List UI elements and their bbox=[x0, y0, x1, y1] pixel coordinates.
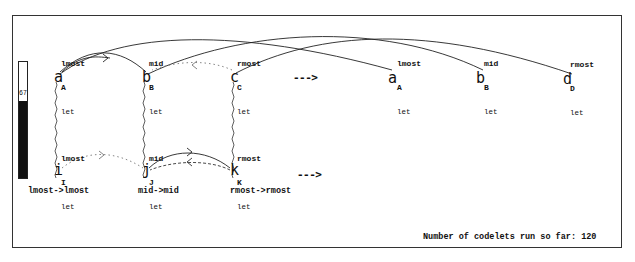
codelet-counter-label: Number of codelets run so far: bbox=[423, 232, 576, 242]
target-j-descriptions: mid J let bbox=[149, 139, 163, 219]
initial-letter-c: c bbox=[230, 70, 239, 85]
top-arrow: ---> bbox=[293, 71, 318, 84]
initial-letter-b: b bbox=[142, 70, 151, 85]
temperature-fill bbox=[19, 101, 27, 178]
category: B bbox=[484, 84, 498, 92]
initial-b-descriptions: mid B let bbox=[149, 44, 163, 124]
category: B bbox=[149, 84, 163, 92]
codelet-count: 120 bbox=[581, 232, 596, 242]
codelet-counter: Number of codelets run so far: 120 bbox=[423, 232, 596, 242]
type: let bbox=[570, 109, 594, 117]
target-i-descriptions: lmost I let bbox=[61, 139, 85, 219]
modified-b-descriptions: mid B let bbox=[484, 44, 498, 124]
category: D bbox=[570, 85, 594, 93]
modified-a-descriptions: lmost A let bbox=[397, 44, 421, 124]
modified-letter-d: d bbox=[563, 72, 572, 87]
mapping-rmost: rmost->rmost bbox=[230, 186, 291, 196]
type: let bbox=[484, 108, 498, 116]
description: rmost bbox=[237, 60, 261, 68]
workspace-frame bbox=[12, 15, 622, 248]
category: C bbox=[237, 84, 261, 92]
type: let bbox=[61, 108, 85, 116]
description: lmost bbox=[61, 155, 85, 163]
type: let bbox=[237, 108, 261, 116]
description: mid bbox=[149, 60, 163, 68]
mapping-lmost: lmost->lmost bbox=[28, 186, 89, 196]
bottom-arrow: ---> bbox=[297, 168, 322, 181]
initial-a-descriptions: lmost A let bbox=[61, 44, 85, 124]
target-k-descriptions: rmost K let bbox=[237, 139, 261, 219]
temperature-gauge: 67 bbox=[18, 61, 28, 179]
description: lmost bbox=[61, 60, 85, 68]
description: rmost bbox=[570, 61, 594, 69]
target-letter-j: j bbox=[142, 163, 151, 178]
type: let bbox=[61, 203, 85, 211]
category: A bbox=[397, 84, 421, 92]
initial-letter-a: a bbox=[54, 70, 63, 85]
type: let bbox=[237, 203, 261, 211]
description: lmost bbox=[397, 60, 421, 68]
type: let bbox=[397, 108, 421, 116]
modified-letter-b: b bbox=[476, 71, 485, 86]
temperature-value: 67 bbox=[19, 90, 27, 97]
modified-letter-a: a bbox=[388, 71, 397, 86]
target-letter-k: k bbox=[230, 163, 239, 178]
initial-c-descriptions: rmost C let bbox=[237, 44, 261, 124]
description: mid bbox=[149, 155, 163, 163]
modified-d-descriptions: rmost D let bbox=[570, 45, 594, 125]
target-letter-i: i bbox=[54, 163, 63, 178]
type: let bbox=[149, 203, 163, 211]
type: let bbox=[149, 108, 163, 116]
description: rmost bbox=[237, 155, 261, 163]
description: mid bbox=[484, 60, 498, 68]
mapping-mid: mid->mid bbox=[138, 186, 179, 196]
category: A bbox=[61, 84, 85, 92]
